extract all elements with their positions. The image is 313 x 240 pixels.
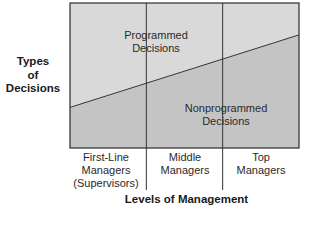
category-line: First-Line: [66, 151, 146, 164]
programmed-label-line: Programmed: [116, 29, 196, 42]
y-label-line: Decisions: [0, 82, 66, 96]
y-label-line: of: [0, 69, 66, 83]
category-middle: Middle Managers: [147, 151, 223, 177]
category-line: Middle: [147, 151, 223, 164]
category-line: Managers: [66, 164, 146, 177]
x-axis-label: Levels of Management: [60, 193, 313, 205]
programmed-label-line: Decisions: [116, 42, 196, 55]
category-first-line: First-Line Managers (Supervisors): [66, 151, 146, 190]
nonprogrammed-label: Nonprogrammed Decisions: [176, 102, 276, 128]
y-axis-label: Types of Decisions: [0, 55, 66, 96]
nonprogrammed-label-line: Decisions: [176, 115, 276, 128]
nonprogrammed-label-line: Nonprogrammed: [176, 102, 276, 115]
category-line: Managers: [147, 164, 223, 177]
category-top: Top Managers: [223, 151, 299, 177]
y-label-line: Types: [0, 55, 66, 69]
category-line: Managers: [223, 164, 299, 177]
category-line: (Supervisors): [66, 177, 146, 190]
category-line: Top: [223, 151, 299, 164]
programmed-label: Programmed Decisions: [116, 29, 196, 55]
